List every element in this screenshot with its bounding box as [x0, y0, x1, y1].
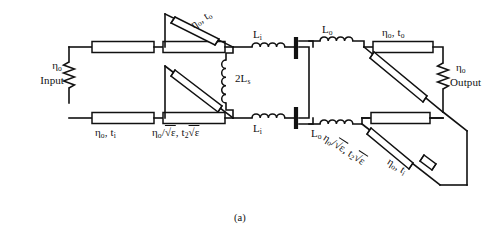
wire-capacitor-interconnect [299, 47, 309, 118]
inductor-li-top-coil [252, 43, 285, 47]
tl-label-input-bottom-1: ηo, ti [95, 126, 116, 140]
wire-2ls-top-jog [226, 47, 233, 60]
output-resistor-zigzag [438, 63, 449, 89]
tl-label-output-top: ηo, to [382, 26, 405, 40]
input-port-label: Input [18, 74, 64, 86]
tl-box-diag-mid-face [171, 70, 222, 112]
output-eta-sub: o [462, 66, 466, 75]
tl-box-top-1 [92, 42, 154, 53]
inductor-2ls-group [222, 47, 233, 118]
inductor-li-top-label: Li [253, 28, 262, 42]
figure-caption: (a) [234, 212, 246, 223]
inductor-lo-top-label: Lo [322, 23, 333, 37]
input-resistor-zigzag [64, 62, 75, 88]
inductor-2ls-label: 2Ls [235, 72, 250, 86]
tl-box-right-top [373, 42, 433, 53]
inductor-lo-bottom-group [309, 118, 362, 124]
inductor-lo-top-coil [320, 37, 353, 41]
input-eta-sub: o [58, 64, 62, 73]
inductor-lo-bottom-label: Lo [311, 127, 322, 141]
wire-lo-top-out [353, 41, 364, 47]
output-port-label: Output [450, 76, 481, 88]
wire-cap-top-out [299, 41, 313, 47]
inductor-lo-bottom-coil [320, 120, 353, 124]
output-resistor-group [438, 63, 449, 112]
wire-right-top-to-output [433, 47, 443, 63]
tl-box-diag-ru-face [370, 52, 427, 102]
inductor-lo-top-group [309, 37, 364, 47]
tl-box-bottom-1 [92, 113, 154, 124]
inductor-li-bottom-label: Li [253, 122, 262, 136]
tl-box-right-bottom [371, 113, 430, 124]
wire-cap-bottom-out [299, 118, 313, 124]
output-impedance-label: ηo [456, 61, 466, 75]
inductor-li-bottom-group [252, 114, 296, 118]
tl-box-diagonal-right-upper [362, 47, 443, 118]
inductor-li-bottom-coil [252, 114, 285, 118]
inductor-li-top-group [252, 43, 296, 47]
inductor-2ls-coil [222, 60, 226, 103]
tl-box-diagonal-right-lower-2 [420, 155, 436, 170]
tl-label-input-bottom-2: ηo/√ε, t2√ε [152, 126, 199, 140]
input-impedance-label: ηo [30, 59, 62, 73]
figure-root: ηo Input ηo Output ηo, ti ηo/√ε, t2√ε ηo… [0, 0, 491, 243]
wire-lo-bottom-out [353, 118, 362, 124]
tl-box-bottom-2 [163, 113, 225, 124]
wire-persp-output-down [443, 112, 467, 131]
input-resistor-group [64, 47, 75, 103]
circuit-schematic-canvas [0, 0, 491, 243]
